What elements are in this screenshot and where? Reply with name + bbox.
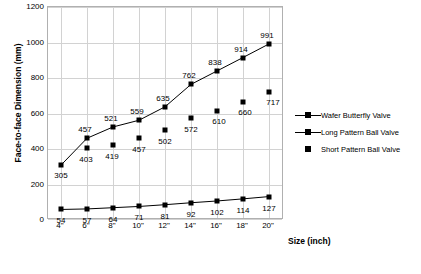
legend-label: Short Pattern Ball Valve <box>321 145 400 154</box>
x-tick-6: 6" <box>82 221 89 230</box>
legend-item-short-pattern-ball-valve: Short Pattern Ball Valve <box>295 144 419 154</box>
data-point-marker <box>189 200 194 205</box>
data-point-label: 572 <box>184 124 197 133</box>
plot-area: 5457647181921021141273054575215596357628… <box>47 6 283 219</box>
data-point-marker <box>215 68 220 73</box>
legend-item-long-pattern-ball-valve: Long Pattern Ball Valve <box>295 127 419 137</box>
data-point-marker <box>189 115 194 120</box>
data-point-marker <box>163 128 168 133</box>
data-point-label: 502 <box>158 137 171 146</box>
y-tick-600: 600 <box>31 108 44 117</box>
data-point-label: 762 <box>182 71 195 80</box>
data-point-label: 838 <box>208 57 221 66</box>
data-point-label: 914 <box>234 44 247 53</box>
data-point-label: 457 <box>78 125 91 134</box>
data-point-marker <box>215 109 220 114</box>
legend-marker-icon <box>295 127 321 137</box>
x-tick-18: 18" <box>236 221 248 230</box>
data-point-marker <box>137 118 142 123</box>
y-tick-200: 200 <box>31 179 44 188</box>
legend-marker-icon <box>295 144 321 154</box>
data-point-marker <box>111 124 116 129</box>
x-axis-ticks: 4" 6" 8" 10" 12" 14" 16" 18" 20" <box>47 221 283 235</box>
y-tick-1000: 1000 <box>26 37 44 46</box>
data-point-label: 127 <box>262 203 275 212</box>
data-point-marker <box>111 205 116 210</box>
x-tick-4: 4" <box>56 221 63 230</box>
data-point-marker <box>241 100 246 105</box>
data-point-marker <box>215 198 220 203</box>
data-point-marker <box>59 207 64 212</box>
y-tick-400: 400 <box>31 144 44 153</box>
data-point-marker <box>189 82 194 87</box>
legend-label: Long Pattern Ball Valve <box>321 128 399 137</box>
x-tick-12: 12" <box>158 221 170 230</box>
legend-item-wafer-butterfly-valve: Wafer Butterfly Valve <box>295 110 419 120</box>
legend-marker-icon <box>295 110 321 120</box>
data-point-marker <box>267 41 272 46</box>
data-point-label: 635 <box>156 93 169 102</box>
data-point-label: 102 <box>210 207 223 216</box>
data-point-label: 114 <box>237 205 250 214</box>
chart-legend: Wafer Butterfly Valve Long Pattern Ball … <box>295 110 419 161</box>
data-point-marker <box>137 204 142 209</box>
data-point-label: 559 <box>130 107 143 116</box>
data-point-marker <box>241 196 246 201</box>
data-point-marker <box>59 163 64 168</box>
legend-label: Wafer Butterfly Valve <box>321 111 391 120</box>
data-point-marker <box>163 202 168 207</box>
data-point-marker <box>267 90 272 95</box>
x-axis-label: Size (inch) <box>288 236 331 246</box>
x-tick-20: 20" <box>262 221 274 230</box>
y-axis-label: Face-to-face Dimension (mm) <box>13 23 23 183</box>
data-point-label: 521 <box>104 113 117 122</box>
data-point-marker <box>137 136 142 141</box>
data-point-label: 457 <box>132 145 145 154</box>
data-point-label: 610 <box>212 117 225 126</box>
x-tick-14: 14" <box>184 221 196 230</box>
data-point-label: 419 <box>105 151 118 160</box>
y-tick-1200: 1200 <box>26 2 44 11</box>
data-point-marker <box>85 145 90 150</box>
data-point-marker <box>85 136 90 141</box>
data-point-marker <box>111 142 116 147</box>
x-tick-16: 16" <box>210 221 222 230</box>
data-point-label: 81 <box>161 211 170 220</box>
y-tick-800: 800 <box>31 73 44 82</box>
data-point-marker <box>163 104 168 109</box>
x-tick-10: 10" <box>132 221 144 230</box>
data-point-label: 717 <box>266 98 279 107</box>
data-point-label: 92 <box>187 209 196 218</box>
chart-container: 0 200 400 600 800 1000 1200 Face-to-face… <box>0 0 421 274</box>
data-point-marker <box>241 55 246 60</box>
data-point-marker <box>85 206 90 211</box>
data-point-label: 403 <box>79 154 92 163</box>
y-tick-0: 0 <box>40 215 44 224</box>
data-point-label: 660 <box>238 108 251 117</box>
x-tick-8: 8" <box>108 221 115 230</box>
data-point-label: 305 <box>54 171 67 180</box>
data-point-label: 991 <box>260 30 273 39</box>
data-point-marker <box>267 194 272 199</box>
